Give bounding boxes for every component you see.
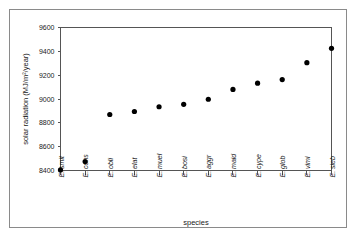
x-tick-label: E. smit — [58, 155, 65, 177]
data-point — [255, 81, 260, 86]
x-tick-label: E. maid — [230, 153, 237, 178]
y-tick-label: 8600 — [39, 143, 55, 150]
x-tick-label: E. aggr — [205, 154, 213, 177]
data-point — [107, 112, 112, 117]
x-tick-label: E. cype — [255, 154, 263, 177]
y-axis-title: solar radiation (MJ/m²/year) — [21, 53, 30, 145]
data-point-series — [58, 46, 334, 173]
data-point — [304, 60, 309, 65]
y-tick-label: 8400 — [39, 167, 55, 174]
x-tick-label: E. bosi — [181, 156, 188, 178]
y-axis-ticks: 8400860088009000920094009600 — [39, 24, 61, 174]
x-tick-label: E. glob — [279, 156, 287, 178]
x-tick-label: E. muel — [156, 153, 163, 177]
y-tick-label: 9200 — [39, 72, 55, 79]
data-point — [156, 104, 161, 109]
data-point — [58, 167, 63, 172]
x-tick-label: E. elat — [131, 157, 138, 178]
y-tick-label: 9600 — [39, 24, 55, 31]
figure: 8400860088009000920094009600 E. smitE. c… — [0, 0, 357, 238]
data-point — [206, 97, 211, 102]
data-point — [83, 159, 88, 164]
x-tick-label: E. sieb — [329, 156, 336, 178]
y-tick-label: 9000 — [39, 96, 55, 103]
plot-frame — [61, 28, 332, 171]
y-tick-label: 8800 — [39, 119, 55, 126]
data-point — [132, 109, 137, 114]
scatter-plot: 8400860088009000920094009600 E. smitE. c… — [0, 0, 357, 238]
x-tick-label: E. vimi — [304, 156, 311, 177]
x-axis-tick-labels: E. smitE. consE. obliE. elatE. muelE. bo… — [58, 153, 336, 178]
data-point — [181, 102, 186, 107]
y-tick-label: 9400 — [39, 48, 55, 55]
x-axis-title: species — [183, 218, 209, 227]
x-tick-label: E. obli — [107, 158, 114, 178]
x-axis-ticks — [61, 171, 332, 175]
x-tick-label: E. cons — [82, 154, 89, 178]
data-point — [280, 77, 285, 82]
data-point — [230, 87, 235, 92]
data-point — [329, 46, 334, 51]
